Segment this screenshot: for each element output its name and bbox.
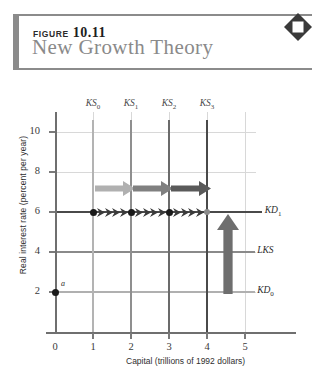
x-tick-label: 3 xyxy=(159,341,179,352)
y-tick-label: 2 xyxy=(12,285,40,296)
x-tick xyxy=(92,333,93,339)
x-tick-label: 2 xyxy=(121,341,141,352)
shift-arrow-1 xyxy=(95,181,135,196)
x-tick xyxy=(244,333,245,339)
curve-ks1 xyxy=(130,120,132,332)
x-tick xyxy=(130,333,131,339)
y-tick-label: 10 xyxy=(12,125,40,136)
curve-ks2 xyxy=(168,120,171,332)
x-tick-label: 1 xyxy=(83,341,103,352)
y-tick xyxy=(49,251,55,252)
x-axis-title: Capital (trillions of 1992 dollars) xyxy=(126,356,245,366)
mini-arrowhead-icon xyxy=(196,208,204,217)
curve-label-ks3: KS3 xyxy=(187,98,227,111)
x-axis-line xyxy=(46,332,296,334)
curve-label-lks: LKS xyxy=(257,245,273,255)
x-tick-label: 4 xyxy=(197,341,217,352)
curve-label-ks2: KS2 xyxy=(149,98,189,111)
data-point-a xyxy=(52,289,59,296)
y-tick-label: 8 xyxy=(12,165,40,176)
y-axis-line xyxy=(55,112,57,334)
y-tick xyxy=(49,211,55,212)
mini-arrowhead-icon xyxy=(120,208,128,217)
curve-label-ks0: KS0 xyxy=(73,98,113,111)
data-point-p3 xyxy=(166,209,173,216)
y-tick-label: 6 xyxy=(12,205,40,216)
curve-label-kd1: KD1 xyxy=(265,205,282,218)
curve-ks3 xyxy=(206,120,209,332)
x-tick-label: 5 xyxy=(235,341,255,352)
curve-label-ks1: KS1 xyxy=(111,98,151,111)
gridline-vertical xyxy=(245,112,246,332)
curve-ks0 xyxy=(92,120,94,332)
chart-plot-area: Real interest rate (percent per year) Ca… xyxy=(0,0,325,385)
figure-container: FIGURE10.11 New Growth Theory Real inter… xyxy=(0,0,325,385)
demand-shift-arrow xyxy=(217,214,239,294)
data-point-p4 xyxy=(204,209,210,215)
y-tick-label: 4 xyxy=(12,245,40,256)
data-point-p2 xyxy=(128,209,135,216)
shift-arrow-2 xyxy=(133,181,173,196)
data-point-label-a: a xyxy=(61,279,65,288)
x-tick xyxy=(206,333,207,339)
y-tick xyxy=(49,171,55,172)
x-tick xyxy=(168,333,169,339)
y-tick xyxy=(49,131,55,132)
mini-arrowhead-icon xyxy=(158,208,166,217)
data-point-p1 xyxy=(90,209,97,216)
x-tick-label: 0 xyxy=(45,341,65,352)
gridline-horizontal xyxy=(55,132,256,133)
gridline-horizontal xyxy=(55,172,256,173)
shift-arrow-3 xyxy=(171,181,211,196)
curve-label-kd0: KD0 xyxy=(257,285,274,298)
